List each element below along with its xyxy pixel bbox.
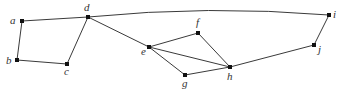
edge-g-h — [185, 67, 230, 75]
node-label-a: a — [10, 14, 16, 26]
node-i — [327, 13, 331, 17]
node-d — [86, 15, 90, 19]
node-label-d: d — [84, 1, 90, 13]
edge-d-e — [88, 17, 149, 47]
edge-e-f — [149, 33, 198, 47]
node-label-g: g — [182, 77, 188, 89]
node-j — [312, 43, 316, 47]
node-f — [196, 31, 200, 35]
node-h — [228, 65, 232, 69]
node-a — [20, 19, 24, 23]
node-label-b: b — [6, 54, 12, 66]
graph-nodes — [15, 13, 331, 77]
edge-c-d — [67, 17, 88, 64]
graph-labels: abcdefghij — [6, 1, 336, 89]
edge-f-h — [198, 33, 230, 67]
edge-h-j — [230, 45, 314, 67]
edge-b-c — [17, 60, 67, 64]
node-label-i: i — [333, 8, 336, 20]
edge-d-i — [88, 10, 329, 17]
edge-a-b — [17, 21, 22, 60]
graph-diagram: abcdefghij — [0, 0, 343, 91]
node-b — [15, 58, 19, 62]
node-label-j: j — [316, 43, 321, 55]
node-label-h: h — [227, 70, 233, 82]
edge-i-j — [314, 15, 329, 45]
node-e — [147, 45, 151, 49]
edge-a-d — [22, 17, 88, 21]
node-label-e: e — [141, 45, 146, 57]
node-label-c: c — [64, 65, 69, 77]
node-label-f: f — [196, 16, 201, 28]
